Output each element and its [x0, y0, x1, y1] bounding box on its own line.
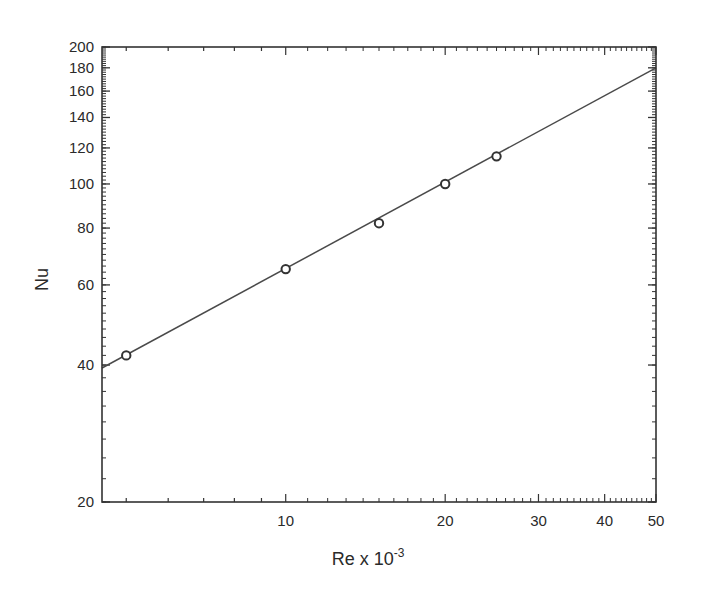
y-tick-label: 20 — [77, 493, 94, 510]
x-tick-labels: 1020304050 — [277, 512, 664, 529]
plot-area: 1020304050 20406080100120140160180200 Nu… — [0, 0, 701, 596]
x-tick-label: 30 — [530, 512, 547, 529]
x-tick-label: 10 — [277, 512, 294, 529]
minor-ticks — [102, 47, 656, 502]
data-point-marker — [375, 219, 383, 227]
x-axis-title: Re x 10-3 — [332, 546, 405, 569]
data-point-marker — [492, 152, 500, 160]
data-point-marker — [122, 351, 130, 359]
chart: 1020304050 20406080100120140160180200 Nu… — [0, 0, 701, 596]
y-tick-label: 100 — [69, 175, 94, 192]
major-ticks — [102, 47, 656, 502]
y-axis-title: Nu — [32, 268, 52, 291]
plot-frame — [102, 47, 656, 502]
y-tick-label: 180 — [69, 59, 94, 76]
fit-line-path — [102, 68, 656, 368]
x-tick-label: 50 — [648, 512, 665, 529]
y-tick-label: 140 — [69, 108, 94, 125]
y-tick-labels: 20406080100120140160180200 — [69, 38, 94, 510]
fit-line — [102, 68, 656, 368]
data-point-marker — [441, 180, 449, 188]
x-axis-title-main: Re x 10 — [332, 549, 394, 569]
data-markers — [122, 152, 501, 359]
y-tick-label: 160 — [69, 82, 94, 99]
y-tick-label: 200 — [69, 38, 94, 55]
y-tick-label: 80 — [77, 219, 94, 236]
x-axis-title-superscript: -3 — [394, 546, 405, 560]
x-tick-label: 40 — [596, 512, 613, 529]
y-tick-label: 40 — [77, 356, 94, 373]
y-tick-label: 60 — [77, 276, 94, 293]
y-tick-label: 120 — [69, 139, 94, 156]
x-tick-label: 20 — [437, 512, 454, 529]
data-point-marker — [282, 265, 290, 273]
